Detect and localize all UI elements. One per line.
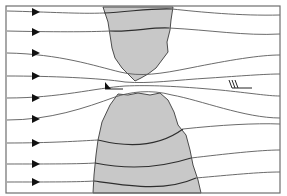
arrow-icon [32,160,40,168]
flow-diagram [0,0,287,196]
arrow-icon [32,8,40,16]
arrow-icon [32,94,40,102]
arrow-icon [32,72,40,80]
arrow-icon [32,115,40,123]
arrow-icon [32,28,40,36]
wind-barb-downstream [229,80,252,88]
wind-barb-gap [105,82,123,89]
upper-land-mass [103,7,173,81]
lower-land-mass [93,93,201,193]
arrow-icon [32,178,40,186]
arrow-icon [32,139,40,147]
arrow-icon [32,49,40,57]
